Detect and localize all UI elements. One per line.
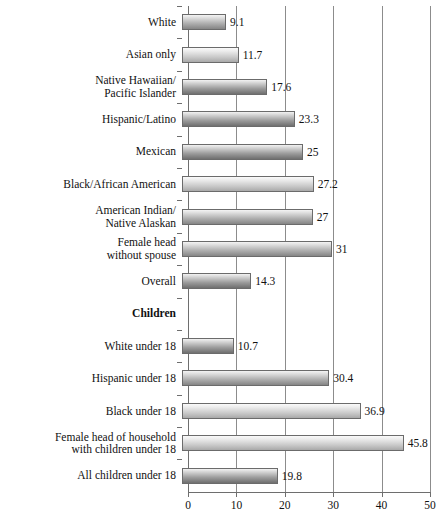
x-axis-ticks: 01020304050	[188, 492, 431, 518]
x-axis-tick	[333, 492, 334, 497]
bar-category-label: Female head without spouse	[0, 236, 182, 261]
y-axis-tick	[177, 6, 182, 7]
x-axis-tick-label: 0	[185, 499, 191, 511]
bar-row: Female head of household with children u…	[0, 427, 442, 459]
bar-value-label: 11.7	[239, 49, 263, 61]
bar-track: 11.7	[182, 38, 442, 70]
bar-value-label: 19.8	[278, 470, 302, 482]
x-axis-tick-label: 10	[231, 499, 243, 511]
y-axis-tick	[177, 395, 182, 396]
bar-track: 10.7	[182, 330, 442, 362]
bar-category-label: Children	[0, 307, 182, 320]
x-axis-tick-label: 50	[424, 499, 436, 511]
bar	[182, 209, 313, 225]
bar	[182, 79, 267, 95]
bar-category-label: American Indian/ Native Alaskan	[0, 204, 182, 229]
bar-track: 27	[182, 200, 442, 232]
y-axis-tick	[177, 168, 182, 169]
x-axis-tick	[188, 492, 189, 497]
bar	[182, 241, 332, 257]
bar-row: Black/African American27.2	[0, 168, 442, 200]
y-axis-tick	[177, 233, 182, 234]
bar-value-label: 31	[332, 243, 348, 255]
bar	[182, 338, 234, 354]
bar	[182, 468, 278, 484]
x-axis-tick	[236, 492, 237, 497]
bar	[182, 47, 239, 63]
bar-category-label: Native Hawaiian/ Pacific Islander	[0, 74, 182, 99]
y-axis-tick	[177, 427, 182, 428]
x-axis-tick	[285, 492, 286, 497]
x-axis-tick	[382, 492, 383, 497]
bar-row: Female head without spouse31	[0, 233, 442, 265]
bar-track: 27.2	[182, 168, 442, 200]
bar-category-label: Hispanic under 18	[0, 372, 182, 385]
bar-track: 30.4	[182, 362, 442, 394]
y-axis-tick	[177, 265, 182, 266]
y-axis-tick	[177, 136, 182, 137]
bar	[182, 14, 226, 30]
bar-track: 45.8	[182, 427, 442, 459]
bar-row: Hispanic/Latino23.3	[0, 103, 442, 135]
bar-track: 23.3	[182, 103, 442, 135]
x-axis-tick-label: 40	[376, 499, 388, 511]
bar-category-label: Black under 18	[0, 405, 182, 418]
bar-chart: White9.1Asian only11.7Native Hawaiian/ P…	[0, 0, 442, 518]
bar-row: Black under 1836.9	[0, 395, 442, 427]
bar-value-label: 27	[313, 211, 329, 223]
bar-category-label: Black/African American	[0, 178, 182, 191]
bar-track: 9.1	[182, 6, 442, 38]
bar-rows: White9.1Asian only11.7Native Hawaiian/ P…	[0, 6, 442, 492]
bar-category-label: All children under 18	[0, 469, 182, 482]
bar-value-label: 36.9	[361, 405, 385, 417]
bar-value-label: 23.3	[295, 113, 319, 125]
bar	[182, 273, 251, 289]
bar-value-label: 14.3	[251, 275, 275, 287]
bar-track: 25	[182, 136, 442, 168]
bar-row: Hispanic under 1830.4	[0, 362, 442, 394]
bar-value-label: 17.6	[267, 81, 291, 93]
bar-row: White under 1810.7	[0, 330, 442, 362]
bar-track: 17.6	[182, 71, 442, 103]
bar-track: 14.3	[182, 265, 442, 297]
y-axis-tick	[177, 459, 182, 460]
bar-row: American Indian/ Native Alaskan27	[0, 200, 442, 232]
x-axis-tick-label: 20	[279, 499, 291, 511]
bar-value-label: 30.4	[329, 372, 353, 384]
bar-category-label: Asian only	[0, 48, 182, 61]
bar-row: White9.1	[0, 6, 442, 38]
y-axis-tick	[177, 38, 182, 39]
section-header-row: Children	[0, 298, 442, 330]
bar	[182, 435, 404, 451]
bar	[182, 370, 329, 386]
bar-category-label: Mexican	[0, 145, 182, 158]
bar-row: Native Hawaiian/ Pacific Islander17.6	[0, 71, 442, 103]
y-axis-tick	[177, 71, 182, 72]
bar-value-label: 27.2	[314, 178, 338, 190]
bar-track: 31	[182, 233, 442, 265]
bar-row: Asian only11.7	[0, 38, 442, 70]
bar-category-label: White	[0, 16, 182, 29]
bar-category-label: Female head of household with children u…	[0, 431, 182, 456]
bar	[182, 176, 314, 192]
bar	[182, 111, 295, 127]
bar-row: Mexican25	[0, 136, 442, 168]
y-axis-tick	[177, 200, 182, 201]
x-axis-tick	[430, 492, 431, 497]
bar-value-label: 45.8	[404, 437, 428, 449]
x-axis-tick-label: 30	[327, 499, 339, 511]
bar-value-label: 9.1	[226, 16, 244, 28]
bar-track: 36.9	[182, 395, 442, 427]
y-axis-tick	[177, 298, 182, 299]
bar-row: All children under 1819.8	[0, 459, 442, 491]
bar	[182, 403, 361, 419]
bar	[182, 144, 303, 160]
bar-value-label: 10.7	[234, 340, 258, 352]
y-axis-tick	[177, 103, 182, 104]
bar-track: 19.8	[182, 459, 442, 491]
y-axis-tick	[177, 362, 182, 363]
bar-category-label: White under 18	[0, 340, 182, 353]
bar-category-label: Hispanic/Latino	[0, 113, 182, 126]
y-axis-tick	[177, 330, 182, 331]
bar-value-label: 25	[303, 146, 319, 158]
